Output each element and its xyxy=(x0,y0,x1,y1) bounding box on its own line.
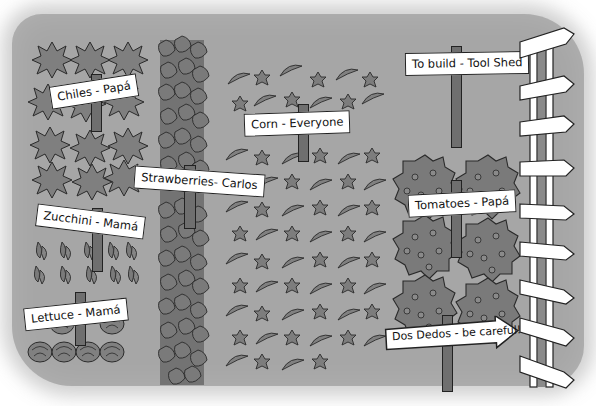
sign-dos-dedos: Dos Dedos - be careful! xyxy=(383,314,521,355)
sign-tool-shed: To build - Tool Shed xyxy=(405,51,530,76)
fence xyxy=(516,12,596,402)
zucchini-bed xyxy=(34,242,138,284)
sign-corn: Corn - Everyone xyxy=(244,110,351,137)
chiles-bed xyxy=(28,42,148,200)
